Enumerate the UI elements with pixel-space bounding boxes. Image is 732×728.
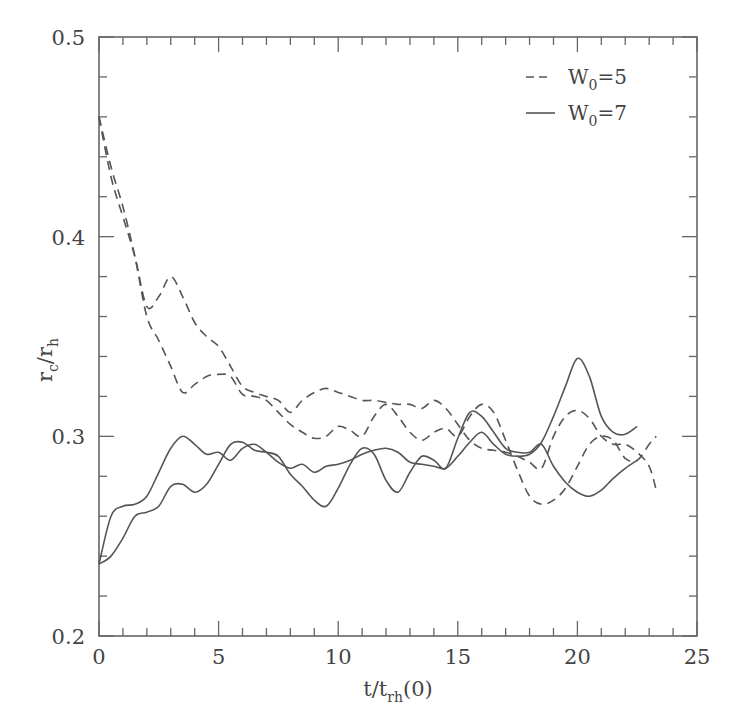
x-tick-label: 25 xyxy=(684,645,711,669)
svg-text:t/trh(0): t/trh(0) xyxy=(363,677,432,705)
y-axis-label: rc/rh xyxy=(33,338,61,382)
x-axis-ticks xyxy=(99,37,697,636)
y-tick-label: 0.2 xyxy=(52,625,85,649)
line-chart: 0510152025 0.20.30.40.5 W0=5 W0=7 rc/rh … xyxy=(0,0,732,728)
x-tick-label: 0 xyxy=(92,645,105,669)
x-axis-tick-labels: 0510152025 xyxy=(92,645,710,669)
legend-label-w0-5: W0=5 xyxy=(568,65,627,93)
x-tick-label: 20 xyxy=(564,645,591,669)
plot-frame xyxy=(99,37,697,636)
x-tick-label: 5 xyxy=(212,645,225,669)
legend-label-w0-7: W0=7 xyxy=(568,101,627,129)
y-tick-label: 0.5 xyxy=(52,26,85,50)
x-axis-label: t/trh(0) xyxy=(363,677,432,705)
series-line-w0-5-0 xyxy=(99,117,656,490)
y-tick-label: 0.4 xyxy=(52,226,85,250)
x-tick-label: 10 xyxy=(325,645,352,669)
x-tick-label: 15 xyxy=(444,645,471,669)
series-layer xyxy=(99,117,656,564)
legend: W0=5 W0=7 xyxy=(526,65,627,129)
plot-border xyxy=(99,37,697,636)
series-line-w0-7-3 xyxy=(99,411,637,564)
y-tick-label: 0.3 xyxy=(52,425,85,449)
legend-item-dashed: W0=5 xyxy=(526,65,627,93)
y-axis-tick-labels: 0.20.30.40.5 xyxy=(52,26,85,649)
svg-text:rc/rh: rc/rh xyxy=(33,338,61,382)
series-line-w0-5-1 xyxy=(99,117,656,504)
y-axis-ticks xyxy=(99,37,697,636)
legend-item-solid: W0=7 xyxy=(526,101,627,129)
